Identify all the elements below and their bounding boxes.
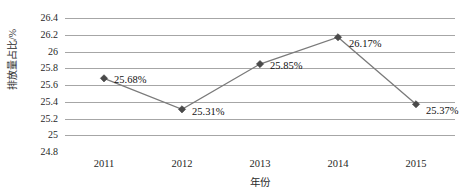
data-point-marker [256, 60, 263, 67]
data-point-marker [178, 106, 185, 113]
x-tick-label: 2011 [94, 158, 115, 169]
x-tick-label: 2015 [406, 158, 427, 169]
x-tick-label: 2013 [250, 158, 271, 169]
y-tick-label: 25.8 [24, 63, 58, 73]
y-tick-label: 25 [24, 130, 58, 140]
data-point-marker [100, 75, 107, 82]
x-tick-label: 2014 [328, 158, 349, 169]
y-tick-label: 24.8 [24, 147, 58, 157]
y-axis-title: 排放量占比/% [4, 5, 19, 115]
y-tick-label: 25.2 [24, 114, 58, 124]
y-tick-label: 26.2 [24, 30, 58, 40]
y-tick-label: 25.6 [24, 80, 58, 90]
y-axis-tick-labels: 26.426.22625.825.625.425.22524.8 [24, 0, 58, 196]
line-chart: 排放量占比/% 26.426.22625.825.625.425.22524.8… [0, 0, 465, 196]
data-point-label: 25.31% [192, 106, 224, 117]
data-point-label: 25.85% [270, 60, 302, 71]
y-tick-label: 25.4 [24, 97, 58, 107]
data-point-label: 26.17% [349, 38, 381, 49]
y-tick-label: 26.4 [24, 13, 58, 23]
plot-area [65, 18, 455, 152]
data-point-label: 25.68% [114, 74, 146, 85]
x-axis-title: 年份 [65, 174, 455, 189]
y-tick-label: 26 [24, 47, 58, 57]
data-series [65, 18, 455, 152]
data-point-label: 25.37% [426, 105, 458, 116]
x-tick-label: 2012 [172, 158, 193, 169]
